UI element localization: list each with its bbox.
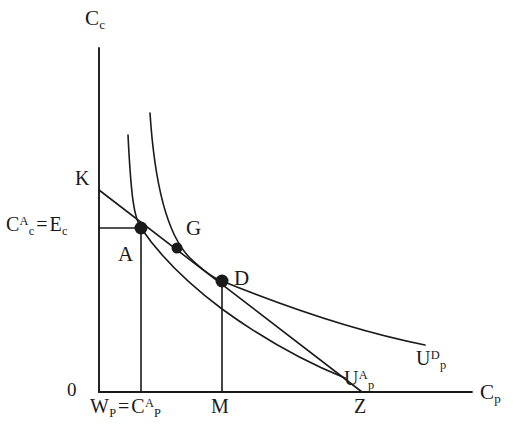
y-axis-label: Cc xyxy=(85,8,105,31)
budget-line-K-Z xyxy=(99,190,362,392)
indifference-curve-Up-A xyxy=(128,135,345,378)
origin-label: 0 xyxy=(67,380,77,399)
point-label-D: D xyxy=(234,268,249,289)
x-tick-wp-equals-cp-a: WP=CAP xyxy=(90,396,161,419)
point-marker-D xyxy=(216,275,229,288)
x-axis-label: Cp xyxy=(480,382,501,405)
point-marker-G xyxy=(172,243,183,254)
y-tick-cc-a-equals-ec: CAc=Ec xyxy=(6,214,68,237)
point-label-G: G xyxy=(186,218,201,239)
point-marker-A xyxy=(135,222,148,235)
point-label-A: A xyxy=(118,244,133,265)
y-tick-K: K xyxy=(75,168,89,188)
curve-label-up-a: UAp xyxy=(344,368,374,391)
curve-label-up-d: UDp xyxy=(416,348,446,371)
x-tick-M: M xyxy=(211,396,229,416)
x-tick-Z: Z xyxy=(354,396,366,416)
indifference-curve-figure: Cc Cp 0 K CAc=Ec WP=CAP M Z A G D UAp UD… xyxy=(0,0,524,435)
